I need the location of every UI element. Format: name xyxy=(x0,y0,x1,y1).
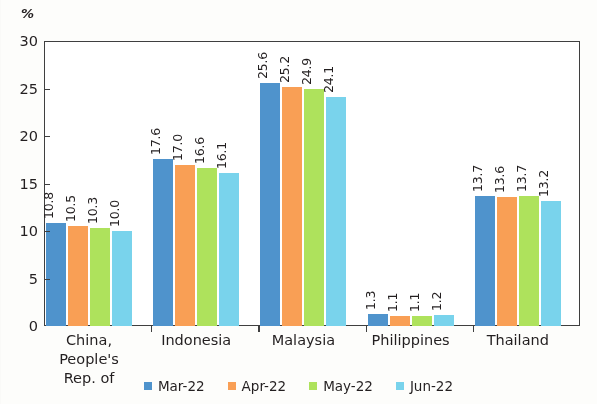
bar-jun-22: 16.1 xyxy=(219,173,239,326)
bar-value-label: 24.9 xyxy=(299,58,314,85)
legend-swatch-icon xyxy=(144,382,152,390)
x-axis-tick-mark xyxy=(366,326,367,332)
legend-item-may-22[interactable]: May-22 xyxy=(309,378,373,394)
legend-item-apr-22[interactable]: Apr-22 xyxy=(228,378,287,394)
x-axis-category-label: Malaysia xyxy=(250,331,357,350)
bar-mar-22: 17.6 xyxy=(153,159,173,326)
bar-group: 10.810.510.310.0 xyxy=(44,41,151,326)
bar-value-label: 25.2 xyxy=(277,56,292,83)
bar-value-label: 10.5 xyxy=(63,195,78,222)
bar-value-label: 1.1 xyxy=(385,292,400,311)
y-axis-tick-label: 5 xyxy=(8,271,38,287)
legend-item-label: Jun-22 xyxy=(410,378,453,394)
x-axis-category-label: Thailand xyxy=(464,331,571,350)
bar-apr-22: 25.2 xyxy=(282,87,302,326)
bar-mar-22: 13.7 xyxy=(475,196,495,326)
bar-value-label: 13.7 xyxy=(514,165,529,192)
bar-apr-22: 13.6 xyxy=(497,197,517,326)
bar-may-22: 13.7 xyxy=(519,196,539,326)
x-axis-category-label-line: Thailand xyxy=(487,332,549,348)
bars-layer: 10.810.510.310.017.617.016.616.125.625.2… xyxy=(44,41,580,326)
bar-may-22: 10.3 xyxy=(90,228,110,326)
bar-value-label: 1.1 xyxy=(407,292,422,311)
bar-group: 17.617.016.616.1 xyxy=(151,41,258,326)
bar-value-label: 1.3 xyxy=(363,290,378,309)
bar-value-label: 13.2 xyxy=(536,170,551,197)
legend-swatch-icon xyxy=(396,382,404,390)
bar-value-label: 10.8 xyxy=(41,192,56,219)
bar-value-label: 13.6 xyxy=(492,166,507,193)
y-axis-tick-mark xyxy=(44,89,50,90)
legend-item-label: May-22 xyxy=(323,378,373,394)
y-axis-tick-label: 20 xyxy=(8,128,38,144)
x-axis-category-label: Philippines xyxy=(357,331,464,350)
bar-mar-22: 1.3 xyxy=(368,314,388,326)
bar-value-label: 17.0 xyxy=(170,133,185,160)
bar-apr-22: 1.1 xyxy=(390,316,410,326)
bar-value-label: 10.3 xyxy=(85,197,100,224)
bar-group: 25.625.224.924.1 xyxy=(258,41,365,326)
y-axis-tick-label: 30 xyxy=(8,33,38,49)
x-axis-category-label: Indonesia xyxy=(143,331,250,350)
y-axis-tick-mark xyxy=(44,231,50,232)
bar-jun-22: 1.2 xyxy=(434,315,454,326)
x-axis-tick-mark xyxy=(258,326,259,332)
y-axis-tick-mark xyxy=(44,184,50,185)
bar-value-label: 16.6 xyxy=(192,137,207,164)
x-axis-category-label-line: Malaysia xyxy=(272,332,335,348)
y-axis-tick-mark xyxy=(44,136,50,137)
x-axis-category-label-line: Philippines xyxy=(372,332,450,348)
y-axis-tick-label: 15 xyxy=(8,176,38,192)
legend-swatch-icon xyxy=(228,382,236,390)
bar-value-label: 13.7 xyxy=(470,165,485,192)
bar-value-label: 1.2 xyxy=(429,291,444,310)
bar-value-label: 17.6 xyxy=(148,128,163,155)
x-axis-category-labels: China, People'sRep. ofIndonesiaMalaysiaP… xyxy=(44,331,580,375)
bar-value-label: 24.1 xyxy=(321,66,336,93)
bar-value-label: 10.0 xyxy=(107,200,122,227)
x-axis-tick-mark xyxy=(473,326,474,332)
bar-group: 1.31.11.11.2 xyxy=(366,41,473,326)
bar-mar-22: 10.8 xyxy=(46,223,66,326)
y-axis: 051015202530 xyxy=(0,0,38,404)
y-axis-tick-label: 0 xyxy=(8,318,38,334)
legend-item-jun-22[interactable]: Jun-22 xyxy=(396,378,453,394)
bar-may-22: 16.6 xyxy=(197,168,217,326)
y-axis-tick-label: 25 xyxy=(8,81,38,97)
bar-chart: % 051015202530 10.810.510.310.017.617.01… xyxy=(0,0,597,404)
y-axis-tick-mark xyxy=(44,279,50,280)
bar-jun-22: 24.1 xyxy=(326,97,346,326)
bar-may-22: 1.1 xyxy=(412,316,432,326)
bar-group: 13.713.613.713.2 xyxy=(473,41,580,326)
legend-item-label: Mar-22 xyxy=(158,378,205,394)
legend-swatch-icon xyxy=(309,382,317,390)
x-axis-tick-mark xyxy=(151,326,152,332)
bar-value-label: 25.6 xyxy=(255,52,270,79)
bar-apr-22: 10.5 xyxy=(68,226,88,326)
bar-apr-22: 17.0 xyxy=(175,165,195,327)
bar-mar-22: 25.6 xyxy=(260,83,280,326)
bar-value-label: 16.1 xyxy=(214,142,229,169)
legend-item-label: Apr-22 xyxy=(242,378,287,394)
bar-may-22: 24.9 xyxy=(304,89,324,326)
x-axis-category-label-line: China, People's xyxy=(59,332,119,367)
chart-legend: Mar-22Apr-22May-22Jun-22 xyxy=(0,378,597,394)
legend-item-mar-22[interactable]: Mar-22 xyxy=(144,378,205,394)
x-axis-category-label-line: Indonesia xyxy=(161,332,231,348)
bar-jun-22: 10.0 xyxy=(112,231,132,326)
y-axis-tick-label: 10 xyxy=(8,223,38,239)
bar-jun-22: 13.2 xyxy=(541,201,561,326)
